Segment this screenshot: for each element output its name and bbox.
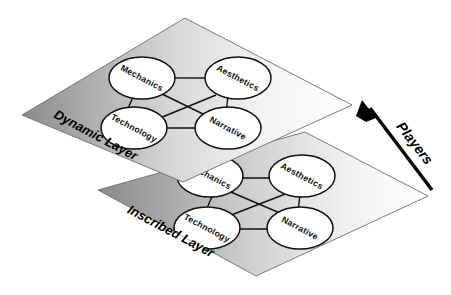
diagram-canvas: Mechanics Aesthetics Technology Narrativ… bbox=[0, 0, 451, 295]
inscribed-node-aesthetics[interactable]: Aesthetics bbox=[269, 155, 335, 197]
dynamic-node-mechanics[interactable]: Mechanics bbox=[109, 57, 175, 99]
dynamic-node-narrative[interactable]: Narrative bbox=[195, 107, 261, 149]
inscribed-node-narrative[interactable]: Narrative bbox=[267, 207, 333, 249]
layered-model-diagram: Mechanics Aesthetics Technology Narrativ… bbox=[0, 0, 451, 295]
players-label: Players bbox=[393, 118, 436, 167]
dynamic-node-aesthetics[interactable]: Aesthetics bbox=[205, 57, 271, 99]
